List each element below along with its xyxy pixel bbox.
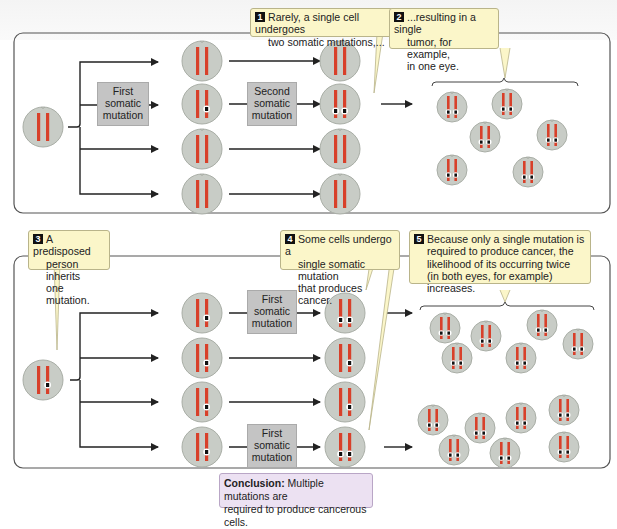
callout-text: required to produce cancer, the [414, 245, 586, 257]
step-number-badge: 2 [394, 12, 404, 22]
callout-text: one mutation. [33, 282, 105, 307]
top-tumor-cells [437, 89, 567, 187]
bottom-branch-arrow-1 [70, 313, 158, 380]
label-line: somatic [248, 439, 296, 451]
bottom-origin-cell [23, 360, 63, 400]
bottom-branch-arrow-4 [80, 380, 158, 447]
callout-5: 5Because only a single mutation is requi… [409, 230, 591, 284]
bottom-tumor-cells-lower [418, 395, 579, 468]
top-col2-cells [320, 41, 360, 214]
label-line: somatic [248, 305, 296, 317]
label-line: somatic [248, 97, 296, 109]
callout-text: Some cells undergo a [285, 233, 392, 257]
callout-3: 3A predisposed person inherits one mutat… [28, 230, 110, 270]
callout-4: 4Some cells undergo a single somatic mut… [280, 230, 400, 270]
conclusion-text: required to produce cancerous cells. [224, 503, 368, 529]
step-number-badge: 1 [255, 12, 265, 22]
callout-text: two somatic mutations,... [255, 36, 390, 48]
callout-text: person inherits [33, 258, 105, 283]
bottom-col1-cells [182, 293, 222, 467]
callout-text: Rarely, a single cell undergoes [255, 11, 359, 35]
label-line: mutation [248, 109, 296, 121]
callout-text: ...resulting in a single [394, 11, 476, 35]
label-line: Second [248, 85, 296, 97]
bottom-col2-cells [325, 293, 365, 467]
label-line: somatic [98, 97, 148, 109]
top-branch-arrow-4 [80, 127, 158, 194]
top-tumor-brace [432, 78, 578, 86]
step-number-badge: 5 [414, 234, 424, 244]
step-number-badge: 4 [285, 234, 295, 244]
callout-2: 2...resulting in a single tumor, for exa… [389, 8, 499, 49]
label-line: First [248, 427, 296, 439]
top-origin-cell [23, 107, 63, 147]
bottom-tumor-brace [420, 302, 594, 310]
top-second-mutation-label: Second somatic mutation [247, 82, 297, 126]
callout-text: likelihood of its occurring twice [414, 258, 586, 270]
callout-text: (in both eyes, for example) increases. [414, 270, 586, 295]
callout-text: in one eye. [394, 60, 494, 72]
bottom-first-mutation-label-b: First somatic mutation [247, 424, 297, 468]
label-line: mutation [98, 109, 148, 121]
callout-text: Because only a single mutation is [427, 233, 584, 245]
callout-1: 1Rarely, a single cell undergoes two som… [250, 8, 395, 37]
conclusion-box: Conclusion: Multiple mutations are requi… [219, 473, 373, 508]
label-line: First [98, 85, 148, 97]
top-first-mutation-label: First somatic mutation [97, 82, 149, 126]
label-line: mutation [248, 317, 296, 329]
callout-text: single somatic mutation [285, 258, 395, 283]
callout-2-tail [500, 48, 510, 78]
top-col1-cells [182, 41, 222, 214]
callout-text: that produces cancer. [285, 282, 395, 307]
conclusion-label: Conclusion: [224, 477, 285, 489]
step-number-badge: 3 [33, 234, 43, 244]
bottom-tumor-cells-upper [430, 310, 593, 373]
label-line: mutation [248, 451, 296, 463]
callout-text: tumor, for example, [394, 36, 494, 61]
